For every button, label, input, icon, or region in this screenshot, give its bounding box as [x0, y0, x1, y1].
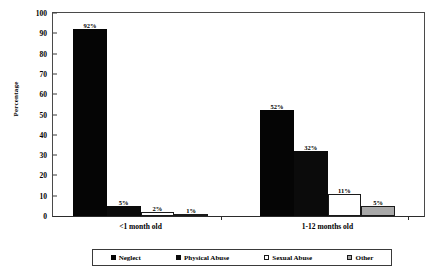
x-category-label: <1 month old — [119, 222, 162, 231]
bar-value-label: 5% — [373, 199, 383, 206]
legend-swatch-physical-abuse — [176, 255, 181, 260]
y-tick-mark — [53, 53, 57, 54]
y-tick-label: 10 — [40, 191, 54, 200]
bar-value-label: 2% — [153, 205, 163, 212]
y-tick-mark — [53, 155, 57, 156]
y-tick-mark — [53, 94, 57, 95]
y-tick-label: 70 — [40, 69, 54, 78]
bar-neglect-group-1: 92% — [73, 29, 107, 216]
bar-other-group-1: 1% — [174, 214, 208, 216]
bar-physical-abuse-group-2: 32% — [294, 151, 328, 216]
y-tick-label: 90 — [40, 29, 54, 38]
y-tick-mark — [53, 73, 57, 74]
x-category-label: 1-12 months old — [302, 222, 353, 231]
bar-neglect-group-2: 52% — [260, 110, 294, 216]
legend-swatch-sexual-abuse — [264, 255, 269, 260]
y-tick-mark — [53, 175, 57, 176]
bar-value-label: 52% — [270, 103, 283, 110]
legend-item-sexual-abuse[interactable]: Sexual Abuse — [264, 254, 312, 262]
legend-swatch-other — [347, 255, 352, 260]
bar-sexual-abuse-group-2: 11% — [328, 194, 362, 216]
y-tick-mark — [53, 13, 57, 14]
legend-swatch-neglect — [111, 255, 116, 260]
bar-value-label: 5% — [119, 199, 129, 206]
y-tick-label: 100 — [36, 9, 53, 18]
legend-label-neglect: Neglect — [119, 254, 141, 262]
chart-legend: Neglect Physical Abuse Sexual Abuse Othe… — [92, 249, 392, 266]
bar-value-label: 11% — [338, 187, 351, 194]
y-tick-label: 80 — [40, 49, 54, 58]
y-tick-label: 40 — [40, 130, 54, 139]
legend-item-other[interactable]: Other — [347, 254, 373, 262]
y-tick-label: 50 — [40, 110, 54, 119]
legend-item-physical-abuse[interactable]: Physical Abuse — [176, 254, 229, 262]
x-tick-mark — [408, 216, 409, 220]
plot-area: 0102030405060708090100 92%5%2%1%52%32%11… — [52, 12, 425, 217]
y-tick-label: 60 — [40, 90, 54, 99]
legend-label-other: Other — [355, 254, 373, 262]
bar-value-label: 92% — [83, 22, 96, 29]
legend-label-physical-abuse: Physical Abuse — [184, 254, 229, 262]
bar-physical-abuse-group-1: 5% — [107, 206, 141, 216]
legend-label-sexual-abuse: Sexual Abuse — [272, 254, 312, 262]
y-tick-mark — [53, 33, 57, 34]
bar-chart: Percentage 0102030405060708090100 92%5%2… — [0, 0, 435, 275]
y-tick-label: 0 — [43, 212, 53, 221]
bar-other-group-2: 5% — [361, 206, 395, 216]
bar-sexual-abuse-group-1: 2% — [141, 212, 175, 216]
y-tick-mark — [53, 134, 57, 135]
legend-item-neglect[interactable]: Neglect — [111, 254, 141, 262]
y-tick-label: 30 — [40, 151, 54, 160]
y-tick-mark — [53, 114, 57, 115]
bar-value-label: 1% — [186, 207, 196, 214]
y-tick-mark — [53, 195, 57, 196]
bar-value-label: 32% — [304, 144, 317, 151]
y-tick-label: 20 — [40, 171, 54, 180]
x-tick-mark — [221, 216, 222, 220]
y-axis-title: Percentage — [12, 59, 20, 139]
